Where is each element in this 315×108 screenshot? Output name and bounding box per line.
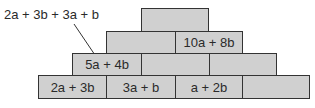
brick-row3-0: 5a + 4b: [72, 53, 142, 76]
brick-row4-0: 2a + 3b: [38, 75, 107, 99]
brick-row3-2: [209, 53, 277, 76]
brick-row2-0: [106, 31, 176, 54]
brick-row4-2: a + 2b: [175, 75, 243, 99]
brick-row3-1: [141, 53, 210, 76]
brick-row4-3: [242, 75, 310, 99]
brick-row1-0: [141, 8, 209, 32]
brick-row4-1: 3a + b: [106, 75, 176, 99]
brick-row2-1: 10a + 8b: [175, 31, 243, 54]
